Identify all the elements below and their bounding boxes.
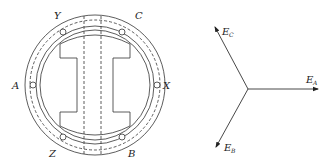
phasor-label-E_A-sub: A: [312, 79, 318, 86]
label-A: A: [11, 80, 19, 91]
phasor-label-E_A: E A: [305, 74, 318, 86]
label-Y: Y: [54, 10, 62, 21]
rotor-pole-shape: [60, 35, 130, 135]
phasor-E_B: [216, 89, 248, 147]
phasor-label-E_C-sub: C: [229, 31, 234, 38]
motor-cross-section: [25, 15, 165, 155]
diagram-canvas: A X Y C Z B E C E A E B: [0, 0, 329, 168]
phasor-label-E_C: E C: [221, 26, 234, 38]
slot-B: [119, 134, 125, 140]
slot-X: [154, 82, 160, 88]
slot-Z: [60, 134, 66, 140]
phasor-label-E_B: E B: [223, 142, 236, 154]
slot-Y: [60, 29, 66, 35]
label-B: B: [127, 148, 135, 159]
label-Z: Z: [48, 148, 57, 159]
slot-C: [119, 29, 125, 35]
phasor-label-E_B-sub: B: [230, 147, 236, 154]
label-C: C: [135, 10, 143, 21]
slot-A: [30, 82, 36, 88]
phasor-diagram: [215, 27, 318, 147]
label-X: X: [162, 80, 171, 91]
